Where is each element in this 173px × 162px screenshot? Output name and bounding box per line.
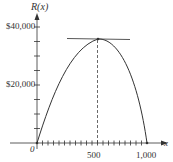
x-tick-label-1000: 1,000 (136, 150, 156, 160)
y-tick-label-40000: $40,000 (6, 21, 35, 31)
revenue-curve (37, 39, 147, 143)
y-tick-label-20000: $20,000 (6, 79, 35, 89)
y-axis-arrow-icon (35, 13, 40, 20)
end-point (146, 142, 149, 145)
x-tick-label-500: 500 (87, 150, 101, 160)
x-axis-label: x (164, 138, 168, 148)
y-axis-label: R(x) (31, 1, 48, 12)
origin-point (36, 142, 39, 145)
x-tick-label-0: 0 (30, 144, 35, 154)
peak-point (97, 38, 100, 41)
